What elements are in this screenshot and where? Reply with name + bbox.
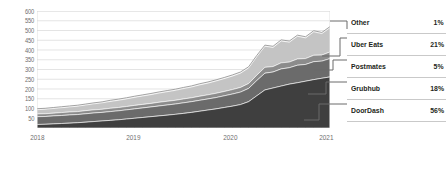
y-axis-tick: 300 (25, 66, 34, 73)
legend-item-value: 56% (430, 106, 444, 115)
legend-item-value: 21% (430, 40, 444, 49)
legend-item-label: Postmates (351, 62, 386, 71)
x-axis-tick: 2018 (30, 134, 44, 142)
stacked-area-chart: 60055050045040035030025020015010050 2018… (0, 0, 446, 176)
x-axis-tick: 2021 (319, 134, 333, 142)
legend-item-label: Other (351, 18, 369, 27)
legend-item-postmates[interactable]: Postmates5% (347, 56, 446, 78)
area-series-svg (37, 11, 330, 128)
y-axis-tick: 450 (25, 37, 34, 44)
y-axis: 60055050045040035030025020015010050 (0, 0, 34, 176)
legend-item-label: DoorDash (351, 106, 384, 115)
legend-item-doordash[interactable]: DoorDash56% (347, 100, 446, 122)
legend-item-label: Grubhub (351, 84, 380, 93)
x-axis-tick: 2020 (224, 134, 238, 142)
legend: Other1%Uber Eats21%Postmates5%Grubhub18%… (347, 12, 446, 128)
legend-item-value: 18% (430, 84, 444, 93)
x-axis-tick: 2019 (126, 134, 140, 142)
y-axis-tick: 250 (25, 76, 34, 83)
legend-item-value: 5% (434, 62, 444, 71)
y-axis-tick: 100 (25, 105, 34, 112)
y-axis-tick: 500 (25, 27, 34, 34)
legend-item-grubhub[interactable]: Grubhub18% (347, 78, 446, 100)
y-axis-tick: 550 (25, 17, 34, 24)
y-axis-tick: 50 (28, 115, 34, 122)
legend-item-other[interactable]: Other1% (347, 12, 446, 34)
y-axis-tick: 400 (25, 47, 34, 54)
plot-area (37, 11, 330, 128)
y-axis-tick: 600 (25, 8, 34, 15)
legend-item-uber-eats[interactable]: Uber Eats21% (347, 34, 446, 56)
y-axis-tick: 350 (25, 56, 34, 63)
legend-item-label: Uber Eats (351, 40, 383, 49)
y-axis-tick: 200 (25, 86, 34, 93)
y-axis-tick: 150 (25, 95, 34, 102)
legend-item-value: 1% (434, 18, 444, 27)
